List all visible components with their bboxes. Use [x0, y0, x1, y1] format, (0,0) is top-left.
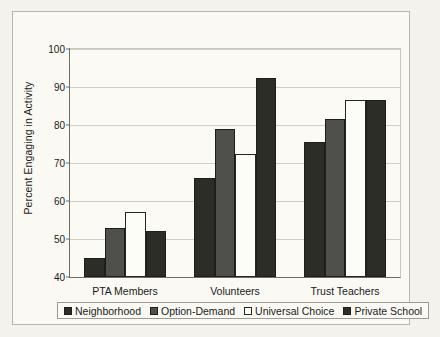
bar [366, 100, 387, 277]
y-axis-tick-mark [66, 125, 70, 126]
x-axis-category-label: PTA Members [92, 285, 158, 297]
legend-item: Option-Demand [150, 305, 235, 317]
gridline [70, 49, 400, 50]
legend-label: Universal Choice [255, 305, 334, 317]
y-axis-tick-mark [66, 239, 70, 240]
y-axis-tick-label: 100 [48, 44, 65, 55]
legend-swatch-icon [343, 307, 351, 315]
bar [146, 231, 167, 277]
y-axis-tick-label: 40 [54, 272, 65, 283]
legend-swatch-icon [244, 307, 252, 315]
bar [84, 258, 105, 277]
x-axis-category-label: Trust Teachers [311, 285, 380, 297]
bar [194, 178, 215, 277]
bar [105, 228, 126, 277]
y-axis-tick-mark [66, 49, 70, 50]
bar [235, 154, 256, 278]
chart-legend: NeighborhoodOption-DemandUniversal Choic… [57, 302, 429, 319]
x-axis-category-label: Volunteers [210, 285, 260, 297]
legend-swatch-icon [64, 307, 72, 315]
y-axis-tick-label: 90 [54, 82, 65, 93]
bar [215, 129, 236, 277]
y-axis-tick-mark [66, 277, 70, 278]
legend-label: Option-Demand [161, 305, 235, 317]
bar [345, 100, 366, 277]
y-axis-tick-mark [66, 87, 70, 88]
y-axis-tick-label: 50 [54, 234, 65, 245]
legend-swatch-icon [150, 307, 158, 315]
bar [325, 119, 346, 277]
legend-label: Private School [354, 305, 422, 317]
y-axis-title: Percent Engaging in Activity [22, 43, 34, 253]
bar [256, 78, 277, 278]
y-axis-tick-label: 60 [54, 196, 65, 207]
y-axis-tick-mark [66, 201, 70, 202]
y-axis-tick-label: 80 [54, 120, 65, 131]
gridline [70, 87, 400, 88]
y-axis-tick-mark [66, 163, 70, 164]
y-axis-tick-label: 70 [54, 158, 65, 169]
bar [125, 212, 146, 277]
bar [304, 142, 325, 277]
plot-area: 405060708090100 PTA MembersVolunteersTru… [69, 48, 401, 278]
legend-item: Neighborhood [64, 305, 141, 317]
bar-chart-figure: Percent Engaging in Activity 40506070809… [0, 0, 440, 337]
legend-item: Universal Choice [244, 305, 334, 317]
legend-item: Private School [343, 305, 422, 317]
legend-label: Neighborhood [75, 305, 141, 317]
